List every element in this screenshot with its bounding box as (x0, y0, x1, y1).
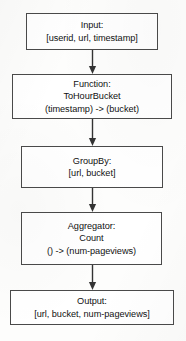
node-function: Function: ToHourBucket (timestamp) -> (b… (12, 74, 172, 119)
node-aggregator: Aggregator: Count () -> (num-pageviews) (21, 212, 162, 265)
edge-function-groupby (86, 118, 99, 146)
node-input: Input: [userid, url, timestamp] (26, 13, 158, 50)
edge-aggregator-output (86, 265, 99, 290)
node-function-line-2: ToHourBucket (63, 90, 120, 102)
node-function-line-3: (timestamp) -> (bucket) (45, 103, 139, 115)
node-aggregator-line-3: () -> (num-pageviews) (47, 245, 136, 257)
node-output-line-1: Output: (77, 295, 107, 307)
node-output-line-2: [url, bucket, num-pageviews] (34, 308, 150, 320)
node-groupby-line-1: GroupBy: (73, 155, 111, 167)
node-groupby: GroupBy: [url, bucket] (21, 146, 163, 188)
edge-groupby-aggregator (86, 188, 99, 212)
node-groupby-line-2: [url, bucket] (69, 167, 116, 179)
node-aggregator-line-1: Aggregator: (68, 220, 115, 232)
dataflow-diagram: Input: [userid, url, timestamp] Function… (0, 0, 186, 341)
node-function-line-1: Function: (73, 78, 110, 90)
node-output: Output: [url, bucket, num-pageviews] (10, 290, 174, 325)
edge-input-function (86, 49, 99, 74)
node-aggregator-line-2: Count (79, 232, 103, 244)
node-input-line-2: [userid, url, timestamp] (46, 32, 138, 44)
node-input-line-1: Input: (81, 19, 104, 31)
